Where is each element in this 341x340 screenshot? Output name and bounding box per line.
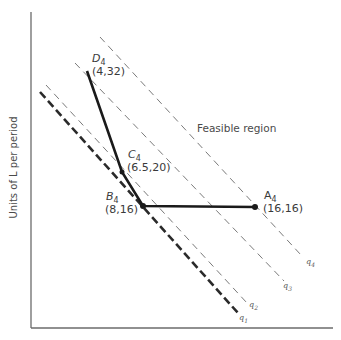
y-axis-label: Units of L per period — [8, 103, 19, 233]
curve-q2-label: q2 — [249, 300, 258, 311]
curve-q3-label: q3 — [283, 281, 292, 292]
curve-q2 — [46, 85, 247, 303]
point-b-coords: (8,16) — [105, 204, 138, 216]
point-c-name: C4 — [128, 148, 141, 161]
point-d-name: D4 — [92, 52, 106, 65]
point-a-name: A4 — [264, 189, 277, 202]
point-d-coords: (4,32) — [92, 66, 125, 78]
point-b — [140, 203, 146, 209]
curve-q4-label: q4 — [306, 257, 315, 268]
point-c — [120, 170, 125, 175]
feasible-region-label: Feasible region — [197, 122, 276, 134]
curve-q4 — [100, 37, 301, 255]
solid-frontier-line — [87, 71, 255, 207]
curve-q1-label: q1 — [239, 313, 248, 324]
point-a-coords: (16,16) — [263, 203, 303, 215]
point-a — [252, 204, 258, 210]
diagram: Units of L per period Feasible region D4… — [0, 0, 341, 340]
point-b-name: B4 — [106, 190, 119, 203]
point-c-coords: (6.5,20) — [127, 162, 171, 174]
